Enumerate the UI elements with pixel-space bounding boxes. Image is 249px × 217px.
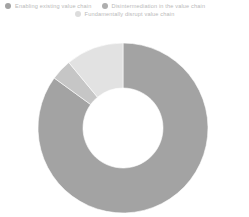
donut-svg — [0, 0, 249, 217]
donut-slice-group — [38, 43, 208, 213]
donut-chart-figure: Enabling existing value chain Disinterme… — [0, 0, 249, 217]
donut-plot-area — [0, 0, 249, 217]
